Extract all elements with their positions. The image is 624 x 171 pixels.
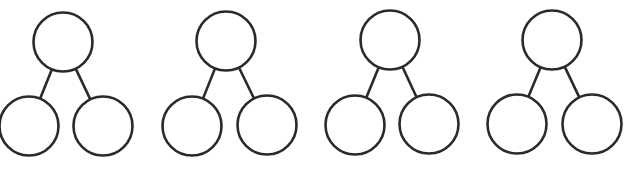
part-circle-left [488, 95, 547, 154]
whole-circle [34, 13, 93, 72]
connector-right [239, 68, 254, 99]
connector-right [402, 67, 416, 97]
connector-left [528, 67, 540, 97]
connector-left [366, 67, 379, 97]
number-bond-1 [0, 13, 133, 156]
whole-circle [197, 12, 256, 71]
part-circle-left [326, 96, 385, 155]
connector-left [40, 69, 52, 98]
whole-circle [523, 11, 582, 70]
part-circle-right [400, 95, 459, 154]
number-bond-3 [326, 11, 459, 155]
part-circle-right [238, 96, 297, 155]
part-circle-right [563, 95, 622, 154]
number-bond-2 [163, 12, 297, 156]
part-circle-left [163, 97, 222, 156]
number-bond-4 [488, 11, 622, 154]
whole-circle [361, 11, 420, 70]
part-circle-left [0, 97, 59, 156]
connector-right [76, 69, 91, 100]
part-circle-right [74, 97, 133, 156]
number-bond-diagram [0, 0, 624, 171]
connector-right [565, 67, 580, 98]
connector-left [203, 68, 215, 98]
